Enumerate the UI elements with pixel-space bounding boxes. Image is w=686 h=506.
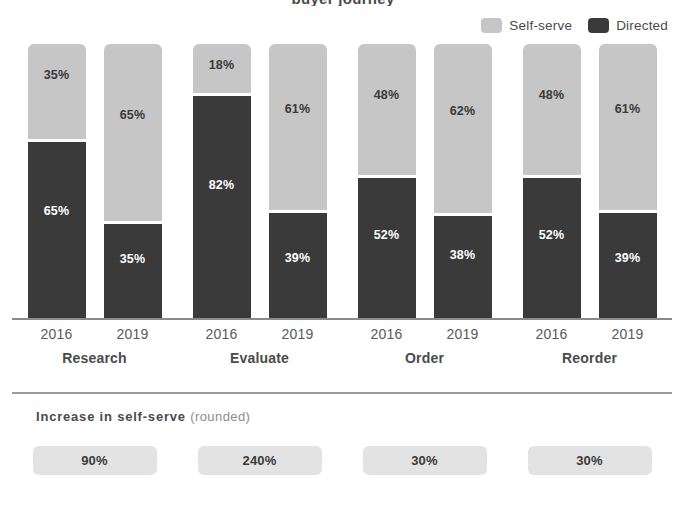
x-axis-group-research: 2016 2019 Research bbox=[12, 326, 177, 366]
segment-self-serve: 18% bbox=[193, 44, 251, 93]
axis-baseline bbox=[12, 318, 672, 320]
segment-label-directed: 65% bbox=[28, 204, 86, 218]
footer-pill-cell-order: 30% bbox=[342, 446, 507, 475]
footer-pill-cell-research: 90% bbox=[12, 446, 177, 475]
bar-group-reorder: 48% 52% 61% 39% bbox=[507, 44, 672, 319]
footer-pill-row: 90% 240% 30% 30% bbox=[12, 446, 672, 475]
x-tick-year: 2019 bbox=[599, 326, 657, 342]
bar-order-2016[interactable]: 48% 52% bbox=[358, 44, 416, 319]
segment-directed: 39% bbox=[269, 213, 327, 319]
x-tick-year: 2019 bbox=[104, 326, 162, 342]
bar-group-order: 48% 52% 62% 38% bbox=[342, 44, 507, 319]
legend-item-directed[interactable]: Directed bbox=[588, 18, 668, 33]
segment-label-self-serve: 61% bbox=[599, 102, 657, 116]
segment-label-directed: 39% bbox=[269, 251, 327, 265]
x-axis-group-evaluate: 2016 2019 Evaluate bbox=[177, 326, 342, 366]
bar-research-2019[interactable]: 65% 35% bbox=[104, 44, 162, 319]
segment-label-self-serve: 48% bbox=[358, 88, 416, 102]
segment-label-directed: 39% bbox=[599, 251, 657, 265]
segment-self-serve: 65% bbox=[104, 44, 162, 221]
legend-label-self-serve: Self-serve bbox=[509, 18, 572, 33]
chart-legend: Self-serve Directed bbox=[481, 18, 668, 33]
footer-pill-order: 30% bbox=[363, 446, 487, 475]
section-divider bbox=[12, 392, 672, 394]
footer-pill-evaluate: 240% bbox=[198, 446, 322, 475]
segment-label-self-serve: 61% bbox=[269, 102, 327, 116]
x-category-label: Reorder bbox=[507, 350, 672, 366]
bar-research-2016[interactable]: 35% 65% bbox=[28, 44, 86, 319]
bar-evaluate-2019[interactable]: 61% 39% bbox=[269, 44, 327, 319]
footer-caption-strong: Increase in self-serve bbox=[36, 409, 186, 424]
x-category-label: Research bbox=[12, 350, 177, 366]
x-tick-year: 2016 bbox=[523, 326, 581, 342]
footer-caption: Increase in self-serve (rounded) bbox=[36, 409, 250, 424]
x-axis-group-reorder: 2016 2019 Reorder bbox=[507, 326, 672, 366]
segment-label-self-serve: 48% bbox=[523, 88, 581, 102]
footer-caption-muted: (rounded) bbox=[190, 409, 250, 424]
bar-group-evaluate: 18% 82% 61% 39% bbox=[177, 44, 342, 319]
segment-label-directed: 52% bbox=[358, 228, 416, 242]
segment-directed: 82% bbox=[193, 96, 251, 319]
segment-self-serve: 61% bbox=[599, 44, 657, 210]
segment-label-self-serve: 35% bbox=[28, 68, 86, 82]
segment-self-serve: 35% bbox=[28, 44, 86, 139]
segment-label-directed: 52% bbox=[523, 228, 581, 242]
x-tick-year: 2019 bbox=[434, 326, 492, 342]
segment-directed: 52% bbox=[523, 178, 581, 319]
segment-directed: 65% bbox=[28, 142, 86, 319]
bar-reorder-2019[interactable]: 61% 39% bbox=[599, 44, 657, 319]
bar-groups: 35% 65% 65% 35% 18% bbox=[12, 44, 672, 319]
segment-label-self-serve: 62% bbox=[434, 104, 492, 118]
x-tick-year: 2019 bbox=[269, 326, 327, 342]
bar-evaluate-2016[interactable]: 18% 82% bbox=[193, 44, 251, 319]
segment-label-directed: 38% bbox=[434, 248, 492, 262]
x-tick-year: 2016 bbox=[358, 326, 416, 342]
segment-self-serve: 62% bbox=[434, 44, 492, 213]
legend-item-self-serve[interactable]: Self-serve bbox=[481, 18, 572, 33]
x-category-label: Order bbox=[342, 350, 507, 366]
x-axis-labels: 2016 2019 Research 2016 2019 Evaluate 20… bbox=[12, 326, 672, 366]
x-axis-group-order: 2016 2019 Order bbox=[342, 326, 507, 366]
footer-pill-research: 90% bbox=[33, 446, 157, 475]
x-tick-year: 2016 bbox=[193, 326, 251, 342]
x-tick-year: 2016 bbox=[28, 326, 86, 342]
bar-order-2019[interactable]: 62% 38% bbox=[434, 44, 492, 319]
segment-label-self-serve: 18% bbox=[193, 58, 251, 72]
footer-pill-reorder: 30% bbox=[528, 446, 652, 475]
legend-swatch-directed-icon bbox=[588, 18, 609, 33]
segment-directed: 38% bbox=[434, 216, 492, 319]
footer-pill-cell-evaluate: 240% bbox=[177, 446, 342, 475]
bar-reorder-2016[interactable]: 48% 52% bbox=[523, 44, 581, 319]
segment-directed: 35% bbox=[104, 224, 162, 319]
segment-directed: 39% bbox=[599, 213, 657, 319]
x-category-label: Evaluate bbox=[177, 350, 342, 366]
segment-label-directed: 35% bbox=[104, 252, 162, 266]
footer-pill-cell-reorder: 30% bbox=[507, 446, 672, 475]
legend-label-directed: Directed bbox=[616, 18, 668, 33]
bar-group-research: 35% 65% 65% 35% bbox=[12, 44, 177, 319]
segment-directed: 52% bbox=[358, 178, 416, 319]
chart-title-partial: buyer journey bbox=[0, 0, 686, 6]
legend-swatch-self-serve-icon bbox=[481, 18, 502, 33]
segment-self-serve: 48% bbox=[523, 44, 581, 175]
chart-plot-area: 35% 65% 65% 35% 18% bbox=[0, 44, 686, 319]
segment-self-serve: 61% bbox=[269, 44, 327, 210]
segment-label-directed: 82% bbox=[193, 178, 251, 192]
segment-label-self-serve: 65% bbox=[104, 108, 162, 122]
segment-self-serve: 48% bbox=[358, 44, 416, 175]
